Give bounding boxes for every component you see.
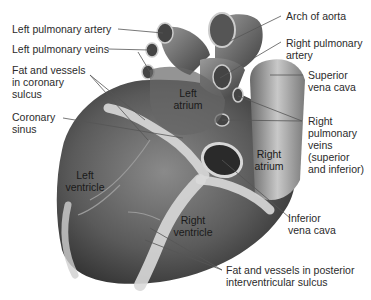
label-left-atrium: Left atrium (168, 87, 208, 111)
heart-diagram: Left pulmonary artery Left pulmonary vei… (0, 0, 371, 300)
label-arch-of-aorta: Arch of aorta (286, 10, 346, 22)
label-coronary-sinus: Coronary sinus (12, 111, 55, 135)
label-fat-vessels-coronary-sulcus: Fat and vessels in coronary sulcus (12, 64, 86, 100)
label-right-atrium: Right atrium (249, 148, 289, 172)
label-right-ventricle: Right ventricle (168, 214, 218, 238)
label-right-pulmonary-veins: Right pulmonary veins (superior and infe… (308, 115, 364, 175)
label-right-pulmonary-artery: Right pulmonary artery (286, 37, 362, 61)
label-left-ventricle: Left ventricle (60, 169, 110, 193)
label-inferior-vena-cava: Inferior vena cava (288, 212, 336, 236)
label-fat-vessels-posterior-sulcus: Fat and vessels in posterior interventri… (226, 264, 354, 288)
superior-vena-cava (250, 59, 305, 200)
label-left-pulmonary-artery: Left pulmonary artery (12, 23, 111, 35)
label-left-pulmonary-veins: Left pulmonary veins (12, 43, 109, 55)
label-superior-vena-cava: Superior vena cava (308, 69, 356, 93)
